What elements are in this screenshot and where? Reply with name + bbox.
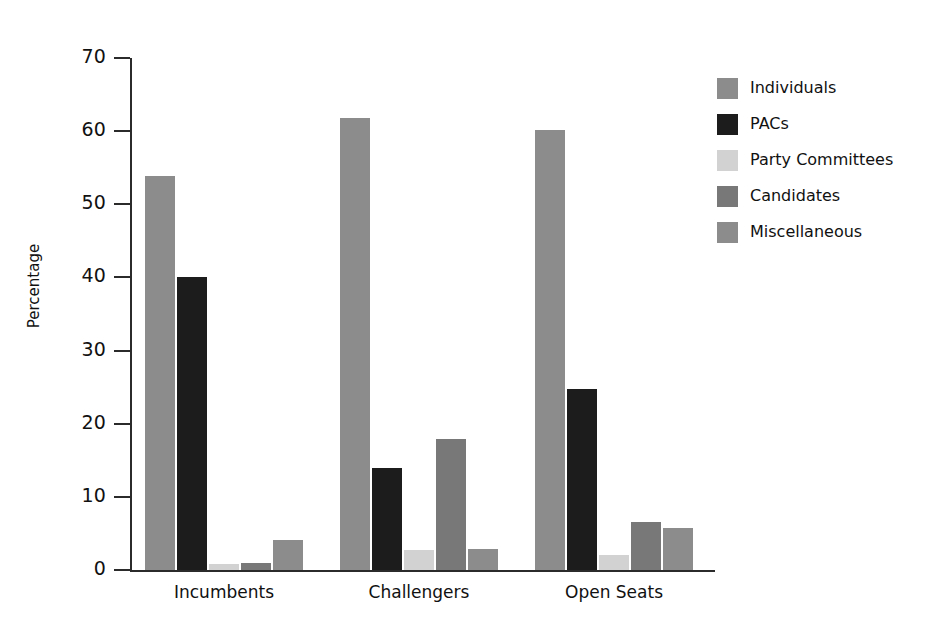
bar: [177, 277, 207, 570]
y-axis-tick-label-wrap: 70: [56, 47, 106, 66]
plot-area: [132, 58, 715, 570]
legend-item-label: Miscellaneous: [750, 220, 862, 244]
y-axis-tick: [114, 569, 130, 571]
chart-legend: IndividualsPACsParty CommitteesCandidate…: [717, 74, 937, 254]
y-axis-tick: [114, 350, 130, 352]
y-axis-tick: [114, 203, 130, 205]
bar-chart-figure: 010203040506070 Percentage IncumbentsCha…: [0, 0, 947, 636]
bar-group-challengers: [340, 58, 498, 570]
bar: [468, 549, 498, 570]
y-axis-tick-label-wrap: 40: [56, 266, 106, 285]
y-axis-tick-label: 50: [60, 193, 106, 212]
bar: [631, 522, 661, 570]
y-axis-tick-label: 10: [60, 486, 106, 505]
x-axis-group-label: Incumbents: [134, 582, 314, 602]
legend-swatch-icon: [717, 114, 738, 135]
legend-swatch-icon: [717, 78, 738, 99]
bar: [404, 550, 434, 570]
legend-item-label: PACs: [750, 112, 789, 136]
x-axis-group-label: Open Seats: [524, 582, 704, 602]
y-axis-tick: [114, 130, 130, 132]
bar: [599, 555, 629, 570]
y-axis-tick-label-wrap: 50: [56, 193, 106, 212]
x-axis-line: [130, 570, 715, 572]
y-axis-tick-label: 30: [60, 340, 106, 359]
legend-item-label: Individuals: [750, 76, 836, 100]
legend-item[interactable]: Candidates: [717, 182, 937, 218]
y-axis-tick-label-wrap: 0: [56, 559, 106, 578]
y-axis-tick: [114, 423, 130, 425]
legend-item[interactable]: Individuals: [717, 74, 937, 110]
y-axis-tick-label-wrap: 30: [56, 340, 106, 359]
y-axis-tick-label: 70: [60, 47, 106, 66]
bar: [663, 528, 693, 570]
y-axis-title: Percentage: [25, 226, 43, 346]
x-axis-group-label: Challengers: [329, 582, 509, 602]
bar: [436, 439, 466, 570]
y-axis-tick-label-wrap: 60: [56, 120, 106, 139]
bar: [567, 389, 597, 570]
legend-item[interactable]: Party Committees: [717, 146, 937, 182]
bar: [340, 118, 370, 570]
bar: [145, 176, 175, 570]
y-axis-tick: [114, 496, 130, 498]
legend-swatch-icon: [717, 150, 738, 171]
bar: [273, 540, 303, 570]
y-axis-tick-label: 40: [60, 266, 106, 285]
legend-swatch-icon: [717, 186, 738, 207]
legend-item[interactable]: PACs: [717, 110, 937, 146]
legend-item[interactable]: Miscellaneous: [717, 218, 937, 254]
bar: [535, 130, 565, 570]
bar: [209, 564, 239, 570]
bar: [241, 563, 271, 570]
bar-group-open-seats: [535, 58, 693, 570]
y-axis-tick-label: 60: [60, 120, 106, 139]
y-axis-tick-label: 0: [60, 559, 106, 578]
y-axis-tick: [114, 276, 130, 278]
legend-item-label: Party Committees: [750, 148, 893, 172]
legend-item-label: Candidates: [750, 184, 840, 208]
y-axis-tick-label-wrap: 10: [56, 486, 106, 505]
legend-swatch-icon: [717, 222, 738, 243]
y-axis-tick-label: 20: [60, 413, 106, 432]
bar-group-incumbents: [145, 58, 303, 570]
bar: [372, 468, 402, 570]
y-axis-tick-label-wrap: 20: [56, 413, 106, 432]
y-axis-tick: [114, 57, 130, 59]
